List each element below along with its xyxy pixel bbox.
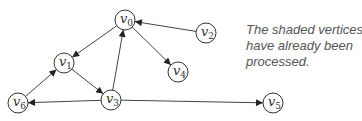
vertex-v5: v5 (263, 93, 283, 113)
caption: The shaded vertices have already been pr… (246, 22, 362, 70)
edge-v3-v6 (28, 100, 101, 102)
caption-line: The shaded vertices (246, 22, 362, 38)
edge-v0-v1 (72, 26, 117, 57)
caption-line: have already been (246, 38, 362, 54)
caption-line: processed. (246, 54, 362, 70)
vertex-v1: v1 (54, 53, 74, 73)
edge-v3-v0 (113, 30, 124, 90)
edge-v2-v0 (135, 22, 196, 32)
vertex-v0: v0 (115, 10, 135, 30)
vertex-v2: v2 (196, 23, 216, 43)
edge-v1-v3 (72, 69, 103, 94)
vertex-v4: v4 (168, 62, 188, 82)
edge-v3-v5 (121, 100, 263, 103)
vertex-v6: v6 (8, 93, 28, 113)
edge-v6-v1 (26, 70, 57, 97)
nodes: v0v1v2v3v4v5v6 (8, 10, 283, 113)
edge-v0-v4 (132, 27, 171, 65)
vertex-v3: v3 (101, 90, 121, 110)
